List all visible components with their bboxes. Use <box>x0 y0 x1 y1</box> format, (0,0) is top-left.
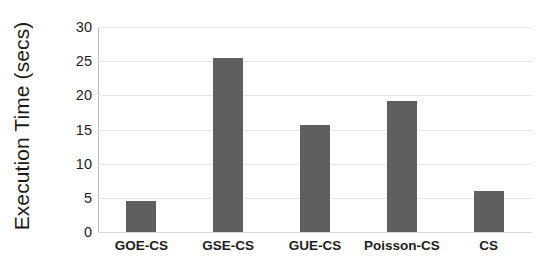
bar-chart: Execution Time (secs) 302520151050 GOE-C… <box>0 0 554 280</box>
x-tick-label: GSE-CS <box>202 238 254 253</box>
plot-area <box>98 27 532 232</box>
y-tick-label: 5 <box>52 190 92 206</box>
gridline <box>98 61 532 62</box>
y-axis-title-text: Execution Time (secs) <box>10 22 34 231</box>
y-tick-label: 15 <box>52 122 92 138</box>
y-tick-label: 10 <box>52 156 92 172</box>
x-tick-label: CS <box>479 238 498 253</box>
gridline <box>98 27 532 28</box>
x-tick-label: GUE-CS <box>289 238 342 253</box>
bar <box>387 101 417 232</box>
bar <box>213 58 243 232</box>
y-tick-label: 25 <box>52 53 92 69</box>
x-tick-label: Poisson-CS <box>364 238 440 253</box>
y-tick-label: 0 <box>52 224 92 240</box>
x-tick-label: GOE-CS <box>115 238 168 253</box>
y-axis-tick-labels: 302520151050 <box>52 0 92 280</box>
gridline <box>98 95 532 96</box>
x-axis-tick-labels: GOE-CSGSE-CSGUE-CSPoisson-CSCS <box>98 238 532 264</box>
y-tick-label: 30 <box>52 19 92 35</box>
bar <box>300 125 330 232</box>
bar <box>126 201 156 232</box>
bar <box>474 191 504 232</box>
y-tick-label: 20 <box>52 87 92 103</box>
x-axis-line <box>98 232 532 233</box>
y-axis-title: Execution Time (secs) <box>0 0 44 252</box>
